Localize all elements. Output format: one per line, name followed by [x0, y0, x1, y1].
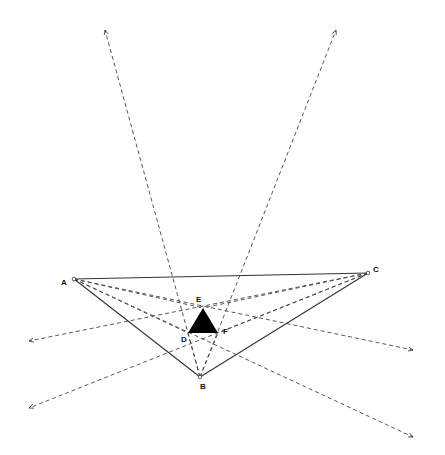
trisector-segment	[188, 333, 200, 377]
label-c: C	[373, 265, 379, 274]
trisector-ray	[29, 273, 368, 408]
label-b: B	[200, 382, 206, 391]
label-e: E	[196, 295, 202, 304]
trisector-segment	[218, 273, 368, 333]
morley-triangle-def	[188, 308, 218, 333]
vertex-marker	[198, 375, 202, 379]
vertex-marker	[72, 277, 76, 281]
trisector-segment	[200, 333, 218, 377]
label-d: D	[181, 335, 187, 344]
label-a: A	[61, 278, 67, 287]
trisector-segment	[74, 279, 188, 333]
triangle-edge	[74, 273, 368, 279]
trisector-rays	[29, 30, 413, 437]
trisector-segment	[203, 273, 368, 308]
trisector-ray	[74, 279, 413, 350]
label-f: F	[223, 327, 228, 336]
triangle-edge	[200, 273, 368, 377]
trisector-ray	[200, 30, 336, 377]
morley-diagram: A B C D E F	[0, 0, 445, 455]
vertex-marker	[366, 271, 370, 275]
vertex-labels: A B C D E F	[61, 265, 379, 391]
vertex-markers	[72, 271, 370, 379]
trisector-ray	[105, 30, 200, 377]
